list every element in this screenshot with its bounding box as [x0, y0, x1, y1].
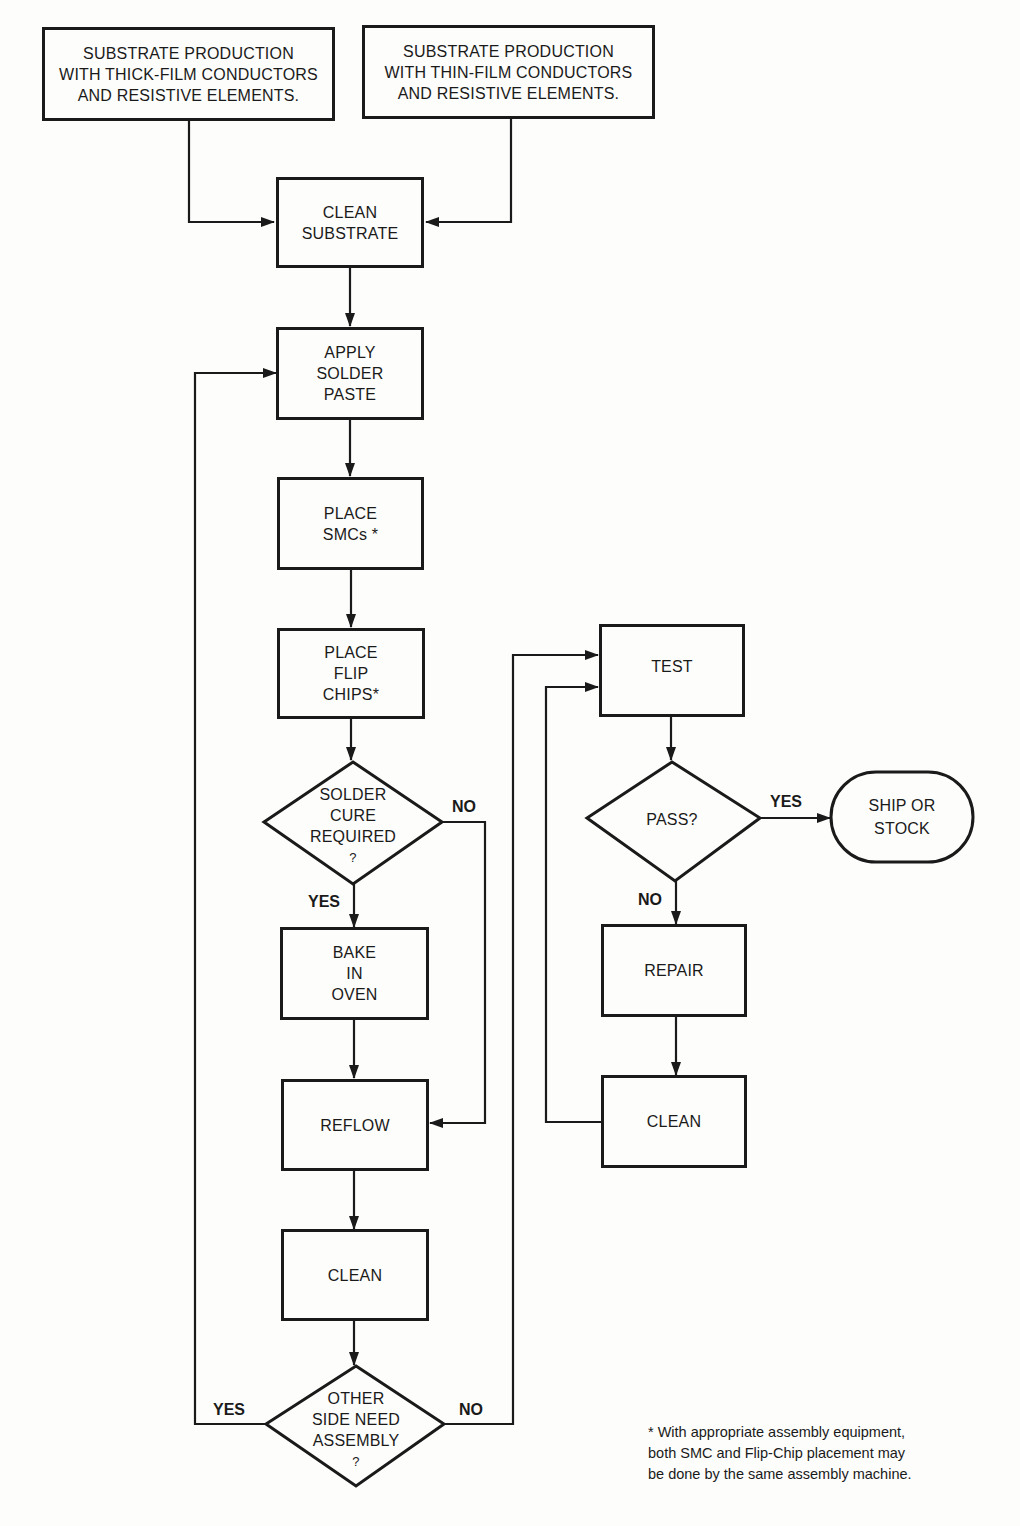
clean-box: CLEAN: [281, 1229, 429, 1321]
node-text: ASSEMBLY: [313, 1430, 400, 1451]
test-box: TEST: [599, 624, 745, 717]
footnote-line: * With appropriate assembly equipment,: [648, 1422, 912, 1443]
footnote-line: both SMC and Flip-Chip placement may: [648, 1443, 912, 1464]
clean-substrate-box: CLEAN SUBSTRATE: [276, 177, 424, 268]
place-smcs-box: PLACE SMCs *: [277, 477, 424, 570]
node-text: SHIP OR: [869, 795, 936, 816]
node-text: SUBSTRATE PRODUCTION: [403, 41, 614, 62]
footnote: * With appropriate assembly equipment, b…: [648, 1422, 912, 1485]
node-text: CURE: [330, 805, 376, 826]
place-flip-chips-box: PLACE FLIP CHIPS*: [277, 628, 425, 719]
node-text: BAKE: [333, 942, 377, 963]
node-text: APPLY: [324, 342, 375, 363]
bake-in-oven-box: BAKE IN OVEN: [280, 927, 429, 1020]
connector-lines: [0, 0, 1020, 1526]
node-text: STOCK: [874, 818, 930, 839]
pass-no-label: NO: [638, 891, 662, 909]
node-text: IN: [346, 963, 362, 984]
node-text: REFLOW: [320, 1115, 390, 1136]
node-text: WITH THICK-FILM CONDUCTORS: [59, 64, 318, 85]
node-text: AND RESISTIVE ELEMENTS.: [398, 83, 620, 104]
node-text: SOLDER: [320, 784, 387, 805]
node-text: FLIP: [334, 663, 369, 684]
solder-cure-decision: SOLDER CURE REQUIRED ?: [284, 782, 422, 870]
node-text: CLEAN: [323, 202, 377, 223]
node-text: OTHER: [328, 1388, 385, 1409]
node-text: SIDE NEED: [312, 1409, 400, 1430]
node-text: CHIPS*: [323, 684, 379, 705]
footnote-line: be done by the same assembly machine.: [648, 1464, 912, 1485]
clean-after-repair-box: CLEAN: [601, 1075, 747, 1168]
node-text: PASS?: [646, 809, 697, 830]
cure-no-label: NO: [452, 798, 476, 816]
node-text: CLEAN: [647, 1111, 701, 1132]
node-text: ?: [352, 1451, 359, 1472]
apply-solder-paste-box: APPLY SOLDER PASTE: [276, 327, 424, 420]
ship-or-stock-terminal: SHIP OR STOCK: [831, 772, 973, 862]
node-text: SOLDER: [317, 363, 384, 384]
node-text: PLACE: [324, 642, 377, 663]
node-text: TEST: [651, 656, 693, 677]
other-side-decision: OTHER SIDE NEED ASSEMBLY ?: [290, 1386, 422, 1474]
node-text: REPAIR: [644, 960, 704, 981]
node-text: SMCs *: [323, 524, 378, 545]
node-text: SUBSTRATE PRODUCTION: [83, 43, 294, 64]
other-yes-label: YES: [213, 1401, 245, 1419]
node-text: CLEAN: [328, 1265, 382, 1286]
cure-yes-label: YES: [308, 893, 340, 911]
other-no-label: NO: [459, 1401, 483, 1419]
node-text: OVEN: [331, 984, 377, 1005]
node-text: SUBSTRATE: [302, 223, 399, 244]
node-text: ?: [349, 847, 356, 868]
node-text: AND RESISTIVE ELEMENTS.: [78, 85, 300, 106]
node-text: PLACE: [324, 503, 377, 524]
reflow-box: REFLOW: [281, 1079, 429, 1171]
thick-film-production-box: SUBSTRATE PRODUCTION WITH THICK-FILM CON…: [42, 27, 335, 121]
repair-box: REPAIR: [601, 924, 747, 1017]
pass-yes-label: YES: [770, 793, 802, 811]
node-text: WITH THIN-FILM CONDUCTORS: [385, 62, 633, 83]
pass-decision: PASS?: [620, 805, 724, 833]
thin-film-production-box: SUBSTRATE PRODUCTION WITH THIN-FILM COND…: [362, 25, 655, 119]
node-text: REQUIRED: [310, 826, 396, 847]
node-text: PASTE: [324, 384, 376, 405]
